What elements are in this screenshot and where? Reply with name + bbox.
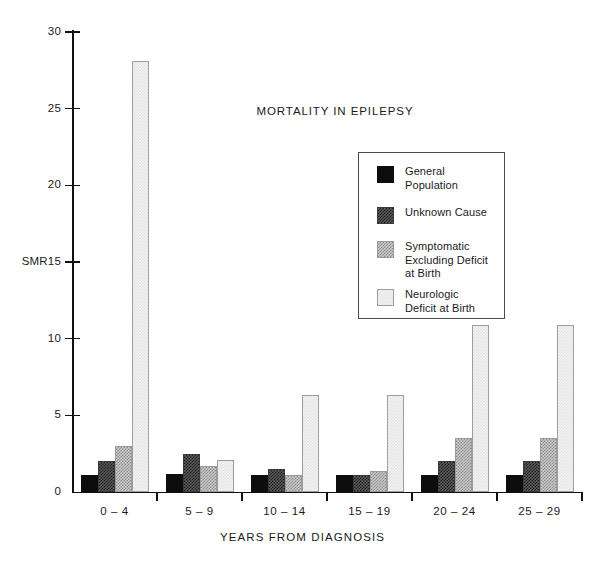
bar (217, 460, 234, 492)
bar-group (166, 32, 234, 492)
y-axis-tick-label: SMR15 (0, 256, 61, 268)
bar (472, 325, 489, 492)
y-axis-tick-label: 30 (0, 26, 61, 38)
bar (557, 325, 574, 492)
bar (132, 61, 149, 492)
chart-legend: General PopulationUnknown CauseSymptomat… (358, 152, 505, 319)
bar (421, 475, 438, 492)
y-axis-title: SMR (22, 255, 48, 267)
y-axis-tick-value: 15 (48, 255, 61, 267)
bar (200, 466, 217, 492)
bar (455, 438, 472, 492)
x-axis-category-label: 0 – 4 (72, 505, 157, 518)
x-axis-category-label: 25 – 29 (497, 505, 582, 518)
bar (183, 454, 200, 492)
x-axis-category-label: 10 – 14 (242, 505, 327, 518)
legend-entry: General Population (377, 165, 458, 192)
bar (523, 461, 540, 492)
legend-entry: Unknown Cause (377, 206, 487, 224)
x-axis-title: YEARS FROM DIAGNOSIS (0, 531, 605, 543)
legend-swatch (377, 289, 394, 306)
legend-swatch (377, 241, 394, 258)
x-axis-tick (241, 492, 243, 501)
bar (268, 469, 285, 492)
x-axis-tick (156, 492, 158, 501)
bar (336, 475, 353, 492)
legend-entry: Symptomatic Excluding Deficit at Birth (377, 240, 488, 281)
bar (438, 461, 455, 492)
bar (115, 446, 132, 492)
legend-swatch (377, 166, 394, 183)
bar (166, 474, 183, 492)
bar (302, 395, 319, 492)
legend-label: Neurologic Deficit at Birth (405, 288, 475, 315)
x-axis-category-label: 15 – 19 (327, 505, 412, 518)
bar (353, 475, 370, 492)
bar-group (81, 32, 149, 492)
x-axis-tick (496, 492, 498, 501)
legend-swatch (377, 207, 394, 224)
x-axis-tick (326, 492, 328, 501)
chart-figure: MORTALITY IN EPILEPSY 0510SMR15202530 0 … (0, 0, 605, 565)
bar (506, 475, 523, 492)
bar (540, 438, 557, 492)
bar (81, 475, 98, 492)
plot-area (72, 32, 582, 492)
legend-label: General Population (405, 165, 458, 192)
legend-label: Symptomatic Excluding Deficit at Birth (405, 240, 488, 281)
y-axis-tick-label: 25 (0, 103, 61, 115)
bar-group (506, 32, 574, 492)
legend-entry: Neurologic Deficit at Birth (377, 288, 475, 315)
bar (285, 475, 302, 492)
legend-label: Unknown Cause (405, 206, 487, 220)
y-axis-tick-label: 20 (0, 179, 61, 191)
bar-group (251, 32, 319, 492)
x-axis-tick (411, 492, 413, 501)
bar (387, 395, 404, 492)
bar (98, 461, 115, 492)
bar (251, 475, 268, 492)
x-axis-tick (581, 492, 583, 501)
y-axis-tick-label: 10 (0, 333, 61, 345)
x-axis-category-label: 20 – 24 (412, 505, 497, 518)
x-axis-category-label: 5 – 9 (157, 505, 242, 518)
y-axis-tick-label: 5 (0, 409, 61, 421)
y-axis-tick-label: 0 (0, 486, 61, 498)
bar (370, 471, 387, 492)
